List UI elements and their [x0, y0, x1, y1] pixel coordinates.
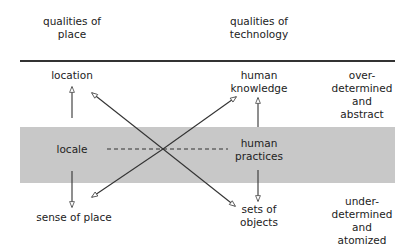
arrow-diagonal-to-human-knowledge-icon: [163, 97, 236, 149]
arrow-diagonal-to-sense-of-place-icon: [92, 149, 163, 197]
arrows-layer: [0, 0, 415, 249]
arrow-diagonal-to-sets-of-objects-icon: [163, 149, 235, 206]
arrow-diagonal-to-location-icon: [92, 93, 163, 149]
